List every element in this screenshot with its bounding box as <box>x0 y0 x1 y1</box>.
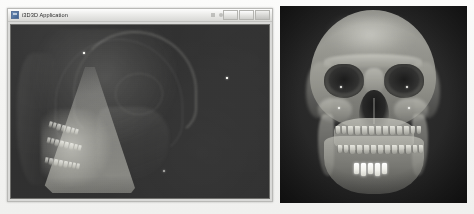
window-title: i3D3D Application <box>22 12 68 19</box>
tooth <box>405 145 411 154</box>
tooth <box>375 126 381 135</box>
tooth <box>354 126 360 135</box>
restoration <box>354 163 359 174</box>
tooth <box>356 145 362 154</box>
3d-volume-viewport[interactable] <box>10 24 270 199</box>
tooth <box>368 126 374 135</box>
close-button[interactable] <box>255 10 270 20</box>
left-orbit <box>324 64 364 98</box>
tooth <box>382 126 388 135</box>
restoration <box>361 163 366 176</box>
application-icon <box>11 11 19 19</box>
dental-restorations <box>354 163 387 176</box>
window-title-bar[interactable]: i3D3D Application <box>8 9 272 22</box>
tooth <box>403 126 409 135</box>
minimize-button[interactable] <box>223 10 238 20</box>
tooth <box>389 126 395 135</box>
restoration <box>368 163 373 174</box>
frontal-skull-canvas[interactable] <box>280 6 467 203</box>
tooth <box>384 145 390 154</box>
application-window[interactable]: i3D3D Application <box>7 8 273 202</box>
title-bar-glyph-group <box>211 13 223 17</box>
fiducial-marker-icon <box>340 86 342 88</box>
tooth <box>361 126 367 135</box>
screenshot-stage: i3D3D Application <box>0 0 474 214</box>
tooth <box>349 145 355 154</box>
tooth <box>396 126 402 135</box>
window-controls[interactable] <box>223 10 270 20</box>
fiducial-marker-icon <box>408 107 410 109</box>
frontal-skull-render-panel[interactable] <box>280 6 467 203</box>
right-orbit <box>384 64 424 98</box>
tooth <box>398 145 404 154</box>
tooth <box>335 126 340 134</box>
upper-dental-arch <box>335 126 421 135</box>
tooth <box>343 145 348 153</box>
lower-dental-arch <box>337 145 423 154</box>
tooth <box>370 145 376 154</box>
fiducial-marker-icon <box>338 107 340 109</box>
tooth <box>341 126 346 134</box>
tooth <box>410 126 415 134</box>
viewport-noise-overlay <box>11 25 269 198</box>
tooth <box>347 126 353 135</box>
tooth <box>418 145 423 153</box>
volume-render-canvas[interactable] <box>11 25 269 198</box>
restoration <box>382 163 387 174</box>
tooth <box>363 145 369 154</box>
maximize-button[interactable] <box>239 10 254 20</box>
tooth <box>412 145 417 153</box>
fiducial-marker-icon <box>406 86 408 88</box>
tooth <box>377 145 383 154</box>
tooth <box>391 145 397 154</box>
restoration <box>375 163 380 176</box>
tooth <box>416 126 421 134</box>
toolbar-glyph-icon <box>211 13 215 17</box>
tooth <box>337 145 342 153</box>
